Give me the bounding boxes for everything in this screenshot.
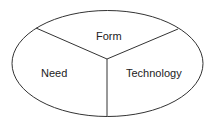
segment-label-technology: Technology (126, 67, 182, 79)
diagram-canvas (0, 0, 215, 122)
segment-label-form: Form (96, 30, 122, 42)
segment-label-need: Need (41, 67, 67, 79)
